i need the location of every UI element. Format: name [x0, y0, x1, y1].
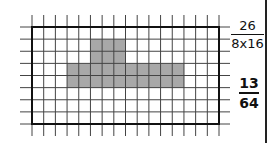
shaded-cell — [126, 76, 138, 88]
fraction-total: 26 8x16 — [231, 19, 264, 50]
shaded-cell — [67, 76, 79, 88]
shaded-cell — [149, 63, 161, 75]
shaded-cell — [67, 63, 79, 75]
fraction-bar — [231, 34, 264, 35]
shaded-cell — [90, 39, 102, 51]
shaded-cell — [114, 76, 126, 88]
shaded-cell — [137, 63, 149, 75]
shaded-cell — [172, 76, 184, 88]
shaded-cell — [161, 76, 173, 88]
shaded-cell — [102, 51, 114, 63]
shaded-cell — [149, 76, 161, 88]
shaded-cell — [79, 76, 91, 88]
shaded-cell — [90, 63, 102, 75]
fraction-simplified-numerator: 13 — [239, 76, 259, 90]
shaded-cell — [90, 51, 102, 63]
fraction-total-numerator: 26 — [231, 19, 264, 32]
fraction-total-denominator: 8x16 — [231, 37, 264, 50]
shaded-cell — [161, 63, 173, 75]
shaded-cell — [114, 39, 126, 51]
shaded-cell — [137, 76, 149, 88]
shaded-cell — [90, 76, 102, 88]
shaded-cell — [79, 63, 91, 75]
fraction-simplified-denominator: 64 — [239, 96, 259, 110]
fraction-simplified: 13 64 — [239, 76, 259, 110]
shaded-cell — [172, 63, 184, 75]
shaded-cell — [114, 51, 126, 63]
shaded-cell — [102, 39, 114, 51]
shaded-cell — [102, 76, 114, 88]
shaded-cell — [114, 63, 126, 75]
fraction-bar — [239, 92, 259, 94]
shaded-cell — [126, 63, 138, 75]
right-border-line — [265, 0, 267, 143]
grid-lines — [20, 15, 230, 136]
shaded-cell — [102, 63, 114, 75]
